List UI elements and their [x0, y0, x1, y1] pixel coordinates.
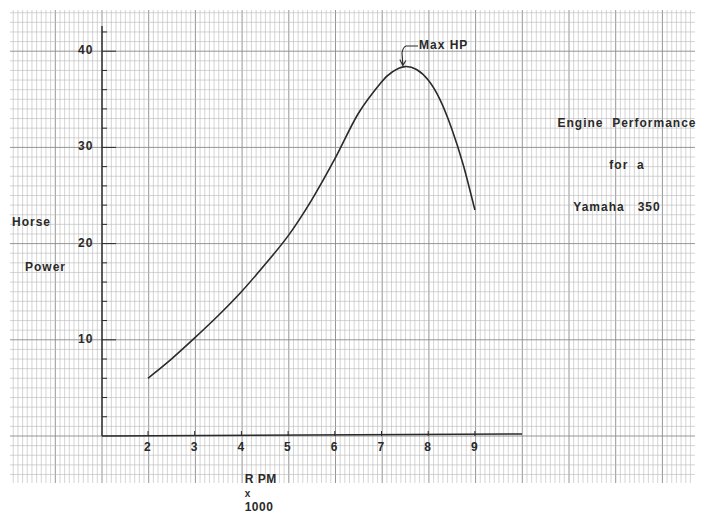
x-axis-label-unit: 1000	[245, 500, 274, 514]
x-tick-label-5: 5	[284, 440, 292, 454]
y-axis-label-line-2: Power	[12, 260, 66, 275]
title-line-2: for a	[552, 158, 702, 172]
y-axis-label-line-1: Horse	[12, 215, 66, 230]
title-line-3: Yamaha 350	[552, 200, 702, 214]
x-tick-label-3: 3	[191, 440, 199, 454]
x-tick-label-2: 2	[144, 440, 152, 454]
title-line-1: Engine Performance	[552, 116, 702, 130]
x-axis-label: R PM x 1000	[237, 458, 277, 514]
grid-lines	[10, 10, 695, 483]
max-hp-annotation: Max HP	[419, 38, 468, 52]
x-tick-label-7: 7	[378, 440, 386, 454]
x-tick-label-6: 6	[331, 440, 339, 454]
x-tick-label-9: 9	[471, 440, 479, 454]
max-hp-leader-line	[400, 46, 418, 66]
x-axis-label-times: x	[245, 488, 251, 499]
horsepower-curve	[148, 67, 475, 379]
chart-title: Engine Performance for a Yamaha 350	[552, 88, 702, 228]
x-tick-label-4: 4	[237, 440, 245, 454]
y-tick-label-40: 40	[78, 43, 93, 57]
y-axis-label: Horse Power	[12, 185, 66, 290]
y-tick-label-10: 10	[78, 332, 93, 346]
x-axis-label-main: R PM	[245, 472, 277, 486]
y-tick-label-30: 30	[78, 139, 93, 153]
y-tick-label-20: 20	[78, 236, 93, 250]
x-tick-label-8: 8	[424, 440, 432, 454]
